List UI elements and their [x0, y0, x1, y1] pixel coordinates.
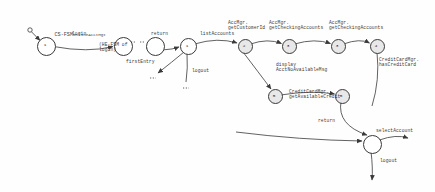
annotation-get-checking-accounts: AccMgr. getCheckingAccounts	[269, 20, 323, 31]
state-label: 1	[180, 43, 195, 48]
annotation-get-customer-id: AccMgr. getCustomerId	[228, 20, 265, 31]
transition-label-firstentry: firstEntry	[126, 59, 155, 64]
edge-display-msg	[243, 52, 271, 89]
edge-logout-1	[186, 53, 187, 82]
transition-label-return-2: return	[318, 118, 335, 123]
transition-label-return-1: return	[151, 31, 168, 36]
state-label: 1	[37, 42, 54, 47]
transition-label-logout-1: logout	[192, 68, 209, 73]
state-label: 2	[238, 43, 251, 48]
state-label: 4	[370, 43, 383, 48]
edge-logout-2	[371, 152, 372, 181]
edge-return-2	[341, 102, 367, 136]
transition-label-selectaccount: selectAccount	[376, 128, 413, 133]
transition-label-listaccounts: listAccounts	[200, 31, 234, 36]
state-node[interactable]	[146, 37, 165, 56]
edge-getcheckingaccounts-1	[295, 41, 331, 44]
annotation-get-checking-accounts-2: AccMgr. getCheckingAccounts	[329, 20, 383, 31]
edge-listaccounts	[195, 40, 238, 44]
edge-getcheckingaccounts-2	[344, 41, 370, 44]
edge-selectaccount	[380, 136, 409, 140]
edge-getcustomerid	[251, 41, 282, 44]
annotation-get-available-credit: CreditCardMgr. getAvailableCredit	[289, 89, 340, 100]
edge-right-vertical	[372, 52, 378, 106]
state-label: 3	[282, 43, 295, 48]
transition-label-logout-2: logout	[380, 158, 397, 163]
state-label: 5	[268, 93, 281, 98]
initial-state-marker	[28, 28, 32, 32]
annotation-display-msg: display AcctNoAvailableMsg	[276, 62, 327, 73]
edge-firstentry	[158, 52, 184, 73]
transition-label-login: login	[72, 31, 86, 36]
edge-from-left-to-s11	[236, 132, 362, 141]
diagram-canvas: CS-FSMOnlineAcctMgt	[0, 0, 435, 192]
annotation-has-credit-card: CreditCardMgr. hasCreditCard	[379, 57, 419, 68]
state-label: 3	[331, 43, 344, 48]
state-node[interactable]	[363, 135, 382, 154]
annotation-he-fsm-login: (HE-FSM of login)	[99, 42, 128, 53]
